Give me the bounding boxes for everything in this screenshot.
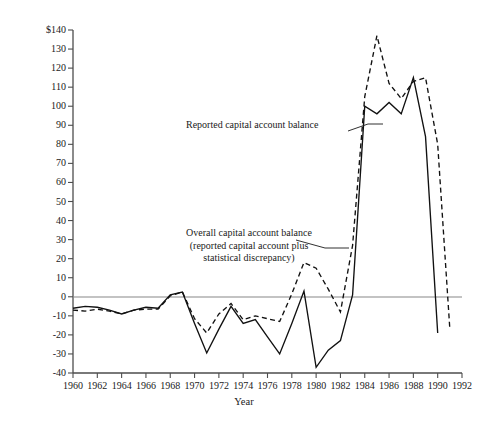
y-tick-label: 0	[20, 292, 66, 302]
annotation-overall-capital-account-balance: Overall capital account balance (reporte…	[156, 227, 342, 265]
chart-plot-area	[0, 0, 488, 431]
y-tick-label: 40	[20, 216, 66, 226]
y-tick-label: 70	[20, 158, 66, 168]
annotation-overall-line-1: Overall capital account balance	[156, 227, 342, 240]
y-tick-label: 110	[20, 82, 66, 92]
y-tick-label: -30	[20, 349, 66, 359]
annotation-overall-line-3: statistical discrepancy)	[156, 252, 342, 265]
y-tick-label: -10	[20, 311, 66, 321]
y-tick-label: -40	[20, 368, 66, 378]
y-tick-label: 50	[20, 197, 66, 207]
annotation-reported-capital-account-balance: Reported capital account balance	[186, 119, 318, 132]
annotation-overall-line-2: (reported capital account plus	[156, 240, 342, 253]
y-tick-label: 130	[20, 44, 66, 54]
y-tick-label: 90	[20, 120, 66, 130]
x-axis-title: Year	[0, 396, 488, 407]
y-tick-label: 60	[20, 177, 66, 187]
y-tick-label: -20	[20, 330, 66, 340]
y-axis-ticks	[68, 30, 73, 373]
y-tick-label: 80	[20, 139, 66, 149]
y-tick-label: 30	[20, 235, 66, 245]
series-overall-capital-account-balance	[73, 36, 450, 333]
y-tick-label: 20	[20, 254, 66, 264]
annotation-leader-reported	[348, 124, 383, 131]
y-tick-label: $140	[20, 25, 66, 35]
y-tick-label: 120	[20, 63, 66, 73]
x-axis-ticks	[73, 373, 462, 378]
x-tick-label: 1992	[445, 381, 479, 391]
chart-figure: -40-30-20-100102030405060708090100110120…	[0, 0, 488, 431]
y-tick-label: 10	[20, 273, 66, 283]
y-tick-label: 100	[20, 101, 66, 111]
